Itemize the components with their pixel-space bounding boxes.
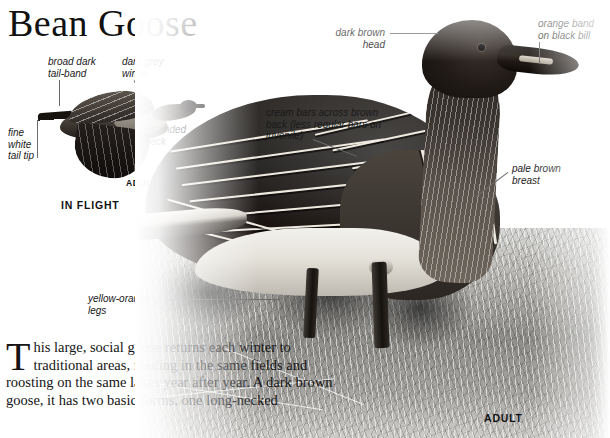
callout-broad-dark-tail-band: broad dark tail-band	[48, 56, 96, 79]
callout-dark-grey-wings: dark grey wings	[122, 56, 164, 79]
in-flight-caption: IN FLIGHT	[61, 199, 120, 211]
field-guide-page: Bean Goose broad dark tail-band dark gre…	[0, 0, 610, 438]
species-description-text: his large, social goose returns each win…	[6, 339, 333, 408]
callout-fine-white-tail-tip: fine white tail tip	[8, 127, 34, 162]
leader-extended-neck	[148, 104, 149, 122]
main-photo-age-tag: ADULT	[484, 412, 523, 424]
callout-extended-neck: extended neck	[145, 124, 186, 147]
goose-belly	[195, 228, 445, 296]
leader-legs	[168, 299, 280, 300]
flight-age-tag: ADULT	[126, 178, 157, 188]
goose-leg-front	[372, 262, 390, 348]
leader-bill	[539, 42, 540, 64]
flight-bill	[193, 104, 205, 108]
page-title: Bean Goose	[8, 1, 198, 45]
callout-yellow-orange-legs: yellow-orange legs	[88, 293, 150, 316]
leader-white-tail-tip	[37, 120, 38, 158]
callout-dark-brown-head: dark brown head	[305, 27, 385, 50]
callout-orange-band-on-black-bill: orange band on black bill	[538, 18, 594, 41]
goose-eye	[478, 44, 485, 51]
leader-head	[390, 33, 438, 34]
species-description: This large, social goose returns each wi…	[6, 339, 336, 409]
callout-cream-bars-across-back: cream bars across brown back (less regul…	[266, 107, 381, 142]
callout-pale-brown-breast: pale brown breast	[512, 163, 561, 186]
flight-lower-wing	[71, 122, 151, 183]
leader-tail-band	[59, 80, 60, 106]
drop-cap: T	[6, 339, 33, 372]
